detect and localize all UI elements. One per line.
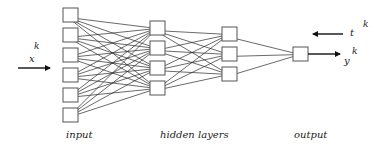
neural-network-diagram xyxy=(0,0,384,149)
input-node-6 xyxy=(63,108,78,122)
connection-edge xyxy=(155,55,229,91)
output-variable-y: y xyxy=(344,56,350,66)
hidden-1-node-3 xyxy=(150,61,165,75)
hidden-1-node-2 xyxy=(150,41,165,55)
hidden-2-node-2 xyxy=(222,47,237,61)
input-variable-x: x xyxy=(29,54,35,64)
input-node-3 xyxy=(63,48,78,62)
output-superscript-k: k xyxy=(352,47,357,56)
connection-edge xyxy=(68,18,157,29)
output-node-1 xyxy=(293,47,308,61)
connection-edge xyxy=(227,55,300,77)
hidden-2-node-1 xyxy=(222,27,237,41)
connection-edge xyxy=(227,55,300,57)
target-variable-t: t xyxy=(350,28,354,38)
hidden-2-node-3 xyxy=(222,67,237,81)
output-layer-label: output xyxy=(294,130,327,140)
input-layer-label: input xyxy=(66,130,93,140)
connection-edge xyxy=(155,35,229,71)
hidden-1-node-4 xyxy=(150,81,165,95)
input-node-2 xyxy=(63,28,78,42)
network-nodes xyxy=(63,8,308,122)
input-node-5 xyxy=(63,88,78,102)
connection-edges xyxy=(68,18,300,118)
input-node-1 xyxy=(63,8,78,22)
hidden-layers-label: hidden layers xyxy=(160,130,229,140)
connection-edge xyxy=(227,37,300,55)
input-superscript-k: k xyxy=(34,42,39,51)
hidden-1-node-1 xyxy=(150,21,165,35)
target-superscript-k: k xyxy=(363,20,368,29)
input-node-4 xyxy=(63,68,78,82)
connection-edge xyxy=(155,35,229,91)
